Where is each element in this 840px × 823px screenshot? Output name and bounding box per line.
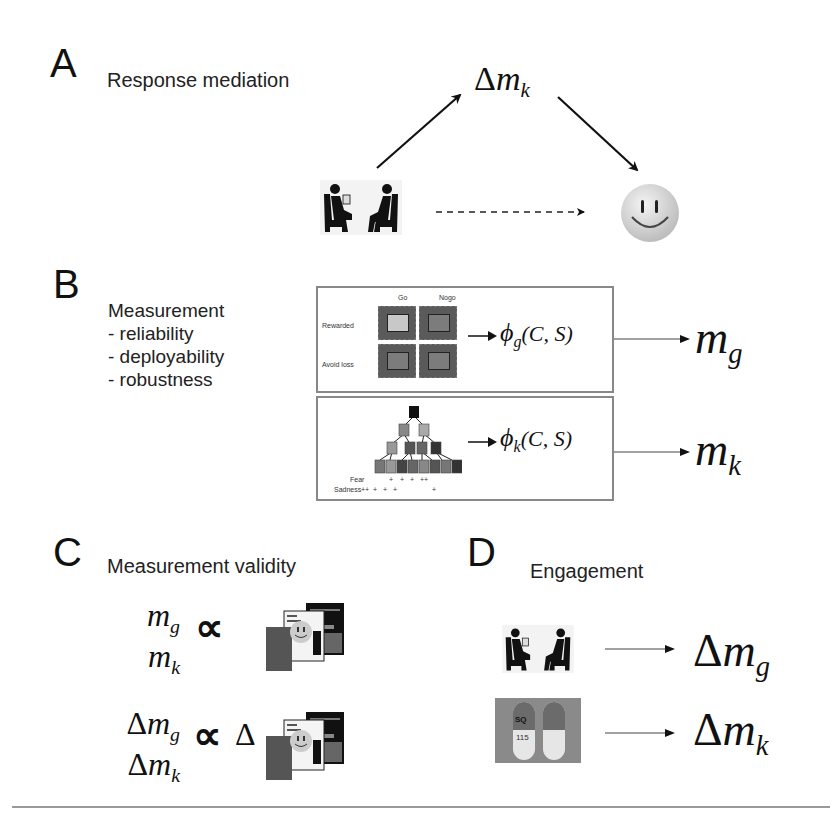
sadness-mark: +	[432, 486, 436, 493]
cell-nogo-rewarded	[419, 306, 457, 340]
cell-go-rewarded	[378, 306, 416, 340]
row-label-sadness: Sadness	[334, 486, 361, 493]
sadness-mark: +	[373, 486, 377, 493]
smiley-face-icon	[620, 183, 680, 243]
panel-c-title: Measurement validity	[107, 555, 296, 578]
arrow-to-outcome	[558, 97, 637, 170]
fear-mark: ++	[420, 476, 428, 483]
criterion-robustness: - robustness	[108, 368, 224, 391]
phi-g-function: ϕg(C, S)	[500, 318, 573, 351]
sadness-mark: ++	[361, 486, 369, 493]
col-header-nogo: Nogo	[439, 294, 456, 301]
criterion-deployability: - deployability	[108, 345, 224, 368]
output-delta-m-g: Δmg	[693, 624, 770, 683]
panel-c-letter: C	[53, 532, 82, 572]
row-label-avoid-loss: Avoid loss	[322, 361, 354, 368]
row-label-rewarded: Rewarded	[322, 322, 354, 329]
arrow-to-phi-k	[468, 436, 498, 448]
measurement-title: Measurement	[108, 299, 224, 322]
emotion-face-tree-icon	[366, 406, 462, 474]
row-label-fear: Fear	[350, 476, 364, 483]
sadness-mark: +	[393, 486, 397, 493]
output-delta-m-k: Δmk	[693, 703, 769, 762]
validity-row2-measures: Δmg Δmk	[104, 708, 180, 790]
capsule	[543, 702, 565, 760]
delta-prefix: Δ	[235, 716, 256, 753]
measurement-criteria-list: Measurement - reliability - deployabilit…	[108, 299, 224, 391]
fear-mark: +	[410, 476, 414, 483]
cell-go-avoid	[378, 344, 416, 378]
cell-nogo-avoid	[419, 344, 457, 378]
arrow-to-mediator	[377, 95, 460, 168]
proportional-symbol: ∝	[193, 712, 222, 759]
panel-b-letter: B	[53, 264, 80, 304]
capsules-icon: SQ 115	[495, 698, 581, 763]
go-nogo-task-box: Go Nogo Rewarded Avoid loss ϕg(C, S)	[316, 286, 614, 393]
clinical-questionnaires-icon	[266, 712, 346, 780]
output-m-k: mk	[695, 423, 741, 482]
clinical-questionnaires-icon	[266, 603, 346, 671]
pill-imprint-bottom: 115	[516, 733, 529, 742]
output-m-g: mg	[695, 311, 743, 370]
phi-k-function: ϕk(C, S)	[500, 423, 572, 456]
therapy-session-icon	[502, 625, 574, 673]
emotion-tree-task-box: Fear Sadness + + + ++ ++ + + + + ϕk(C, S…	[316, 396, 614, 501]
fear-mark: +	[400, 476, 404, 483]
validity-row1-measures: mg mk	[130, 600, 180, 682]
sadness-mark: +	[383, 486, 387, 493]
col-header-go: Go	[398, 294, 407, 301]
bottom-divider	[12, 806, 830, 808]
pill-imprint-top: SQ	[515, 715, 527, 724]
engagement-arrows	[605, 640, 685, 740]
capsule	[513, 702, 535, 760]
fear-mark: +	[389, 476, 393, 483]
therapy-session-icon	[320, 180, 402, 235]
box-output-arrows	[614, 330, 694, 460]
arrow-to-phi-g	[468, 330, 498, 342]
panel-d-title: Engagement	[530, 560, 643, 583]
criterion-reliability: - reliability	[108, 322, 224, 345]
panel-a-arrows	[0, 0, 840, 260]
proportional-symbol: ∝	[195, 604, 224, 651]
panel-d-letter: D	[467, 532, 496, 572]
